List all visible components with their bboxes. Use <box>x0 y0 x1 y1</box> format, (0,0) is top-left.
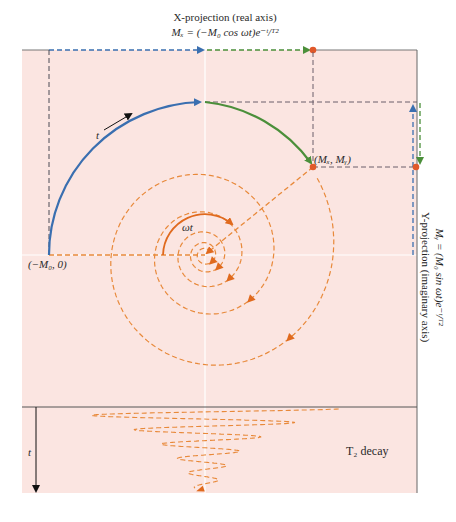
start-point-label: (−M₀, 0) <box>28 259 67 270</box>
y-projection-formula: Mᵧ = (M₀ sin ωt)e⁻ᵗ/ᵀ² <box>432 212 446 342</box>
y-projection-text: Mᵧ = (M₀ sin ωt)e⁻ᵗ/ᵀ² Y-projection (ima… <box>419 212 447 342</box>
angle-label: ωt <box>182 222 193 233</box>
current-point-label: (Mₓ, Mᵧ) <box>314 154 351 165</box>
my-point <box>413 164 420 171</box>
y-projection-title: Y-projection (imaginary axis) <box>419 212 433 342</box>
x-projection-formula: Mₓ = (−M₀ cos ωt)e⁻ᵗ/ᵀ² <box>130 27 320 38</box>
decay-time-label: t <box>28 447 31 458</box>
t2-decay-label: T₂ decay <box>346 445 389 457</box>
x-projection-title: X-projection (real axis) <box>130 12 320 23</box>
time-arrow-label: t <box>96 130 99 141</box>
